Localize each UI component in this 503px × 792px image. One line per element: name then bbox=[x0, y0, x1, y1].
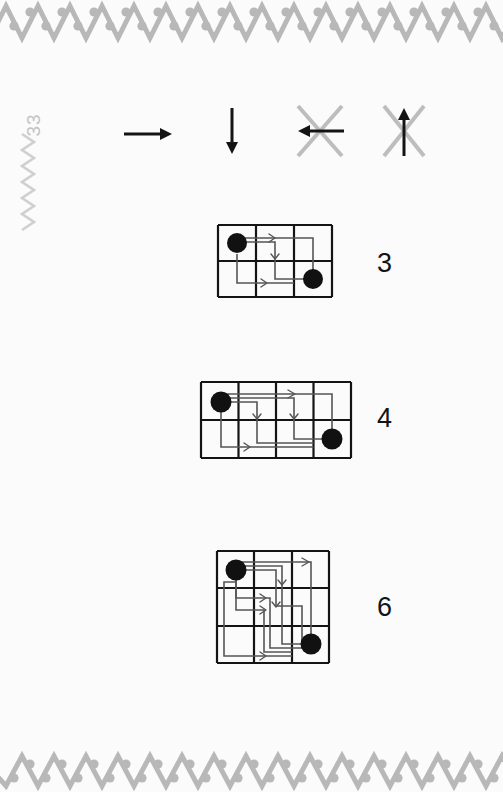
margin-mark: 33 bbox=[14, 96, 54, 236]
start-dot bbox=[227, 233, 247, 253]
bottom-border-ornament bbox=[0, 740, 503, 792]
up-arrow-icon bbox=[398, 108, 410, 156]
worksheet-page: 33 bbox=[0, 0, 503, 792]
puzzle-2-answer: 4 bbox=[377, 403, 392, 434]
left-arrow-icon bbox=[298, 125, 344, 137]
down-arrow-icon bbox=[192, 100, 272, 170]
puzzle-1-grid bbox=[217, 224, 333, 298]
legend-item-left-forbidden bbox=[278, 100, 358, 170]
margin-zigzag-ornament bbox=[18, 134, 42, 234]
puzzle-1-answer: 3 bbox=[377, 248, 392, 279]
legend-item-down bbox=[192, 100, 272, 170]
end-dot bbox=[303, 269, 323, 289]
right-arrow-icon bbox=[110, 100, 190, 170]
end-dot bbox=[322, 429, 343, 450]
end-dot bbox=[301, 634, 322, 655]
puzzle-3-grid bbox=[216, 550, 330, 664]
start-dot bbox=[226, 560, 247, 581]
puzzle-2-grid bbox=[200, 381, 352, 459]
top-border-ornament bbox=[0, 0, 503, 52]
start-dot bbox=[211, 392, 232, 413]
puzzle-3-answer: 6 bbox=[377, 592, 392, 623]
direction-legend bbox=[110, 100, 450, 170]
legend-item-up-forbidden bbox=[370, 100, 450, 170]
legend-item-right bbox=[110, 100, 190, 170]
